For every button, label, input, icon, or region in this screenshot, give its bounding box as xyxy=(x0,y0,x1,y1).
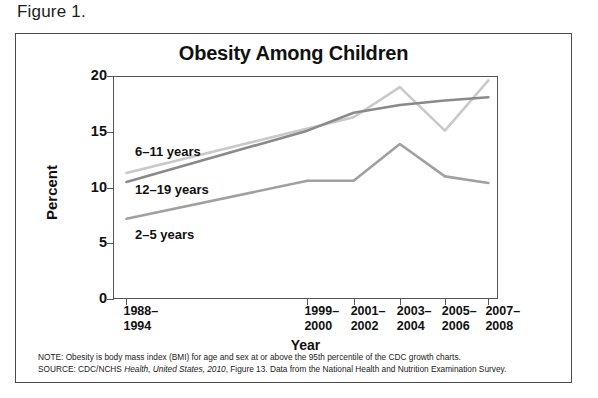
x-tick-mark xyxy=(307,299,308,305)
footnote-source: SOURCE: CDC/NCHS Health, United States, … xyxy=(38,364,568,376)
series-label-2-5: 2–5 years xyxy=(135,227,194,242)
y-tick-label: 0 xyxy=(77,290,107,306)
x-tick-mark xyxy=(445,299,446,305)
y-tick-mark xyxy=(107,299,114,300)
y-axis-tick-labels: 05101520 xyxy=(71,76,107,299)
figure-box: Obesity Among Children Percent 05101520 … xyxy=(15,33,572,383)
series-line xyxy=(126,80,488,173)
footnote-source-italic: Health, United States, 2010 xyxy=(124,364,225,374)
y-tick-mark xyxy=(107,132,114,133)
figure-caption: Figure 1. xyxy=(17,2,86,22)
series-label-6-11: 6–11 years xyxy=(135,144,201,159)
x-tick-label: 2001– 2002 xyxy=(351,304,386,334)
y-tick-mark xyxy=(107,188,114,189)
x-tick-mark xyxy=(126,299,127,305)
y-tick-label: 20 xyxy=(77,67,107,83)
footnote-note: NOTE: Obesity is body mass index (BMI) f… xyxy=(38,352,568,364)
y-axis-title: Percent xyxy=(43,148,60,238)
footnote-source-suffix: , Figure 13. Data from the National Heal… xyxy=(226,364,507,374)
x-axis-title: Year xyxy=(113,337,498,353)
footnotes: NOTE: Obesity is body mass index (BMI) f… xyxy=(38,352,568,375)
x-tick-label: 2003– 2004 xyxy=(397,304,432,334)
y-tick-mark xyxy=(107,243,114,244)
x-tick-label: 1988– 1994 xyxy=(123,304,158,334)
x-tick-label: 2005– 2006 xyxy=(442,304,477,334)
chart-title: Obesity Among Children xyxy=(16,42,571,65)
x-tick-mark xyxy=(400,299,401,305)
y-tick-mark xyxy=(107,76,114,77)
y-tick-label: 10 xyxy=(77,179,107,195)
x-tick-mark xyxy=(354,299,355,305)
x-tick-mark xyxy=(488,299,489,305)
series-label-12-19: 12–19 years xyxy=(135,182,209,197)
y-tick-label: 5 xyxy=(77,234,107,250)
x-tick-label: 2007– 2008 xyxy=(485,304,520,334)
y-tick-label: 15 xyxy=(77,123,107,139)
x-tick-label: 1999– 2000 xyxy=(304,304,339,334)
footnote-source-prefix: SOURCE: CDC/NCHS xyxy=(38,364,124,374)
